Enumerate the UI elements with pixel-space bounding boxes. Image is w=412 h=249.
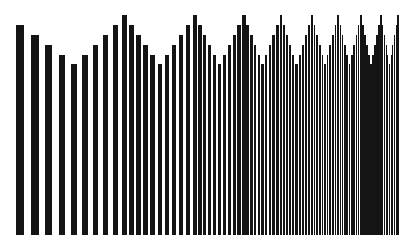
bar xyxy=(228,45,231,235)
bar xyxy=(335,25,337,235)
bar xyxy=(203,35,206,235)
bar xyxy=(179,35,184,235)
bar xyxy=(250,35,253,235)
bar xyxy=(242,15,245,235)
bar xyxy=(283,25,285,235)
bar xyxy=(305,35,307,235)
bar xyxy=(289,45,291,235)
bar xyxy=(322,55,324,235)
bar xyxy=(59,55,65,235)
bar xyxy=(329,45,331,235)
bar xyxy=(150,55,155,235)
bar xyxy=(299,55,301,235)
bar-pattern-chart xyxy=(0,0,412,249)
bar xyxy=(332,35,334,235)
bar xyxy=(31,35,39,235)
bar xyxy=(113,25,118,235)
bar xyxy=(327,55,329,235)
bar xyxy=(280,15,283,235)
bar xyxy=(93,45,98,235)
bar xyxy=(208,45,211,235)
bar xyxy=(254,45,257,235)
bar xyxy=(233,35,236,235)
bar xyxy=(122,15,127,235)
bar xyxy=(172,45,177,235)
bar xyxy=(308,25,310,235)
bar xyxy=(158,64,163,235)
bar xyxy=(237,25,240,235)
bar xyxy=(258,55,261,235)
bar xyxy=(314,25,316,235)
bar xyxy=(272,35,275,235)
bar xyxy=(218,64,221,235)
bar xyxy=(165,55,170,235)
bar xyxy=(82,55,88,235)
bar xyxy=(302,45,304,235)
bar xyxy=(316,35,318,235)
bar xyxy=(276,25,279,235)
bar xyxy=(223,55,226,235)
bar xyxy=(261,64,264,235)
bar xyxy=(71,64,77,235)
bar xyxy=(16,25,24,235)
bar xyxy=(324,64,326,235)
bar xyxy=(143,45,148,235)
bar xyxy=(292,55,294,235)
bar xyxy=(213,55,216,235)
bar xyxy=(136,35,141,235)
bar xyxy=(269,45,272,235)
bar xyxy=(198,25,201,235)
bar xyxy=(193,15,198,235)
bar xyxy=(129,25,134,235)
bar xyxy=(319,45,321,235)
bar xyxy=(265,55,268,235)
bar xyxy=(397,15,398,235)
bar xyxy=(186,25,191,235)
bar xyxy=(295,64,297,235)
bar xyxy=(103,35,108,235)
bar xyxy=(45,45,52,235)
bar xyxy=(286,35,288,235)
bar xyxy=(246,25,249,235)
